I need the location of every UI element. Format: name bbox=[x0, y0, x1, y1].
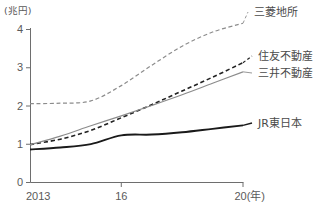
line-chart: (兆円) 01234 20131620(年) 三菱地所住友不動産三井不動産JR東… bbox=[0, 0, 314, 214]
series-label-1: 三菱地所 bbox=[254, 6, 298, 19]
y-tick-label: 1 bbox=[17, 138, 23, 150]
series-label-2: 住友不動産 bbox=[258, 49, 313, 63]
y-tick-label: 0 bbox=[17, 176, 23, 188]
y-axis-unit-label: (兆円) bbox=[4, 5, 31, 16]
x-tick-label: 20(年) bbox=[234, 189, 265, 202]
chart-svg: (兆円) 01234 20131620(年) 三菱地所住友不動産三井不動産JR東… bbox=[0, 0, 314, 214]
y-tick-label: 3 bbox=[17, 61, 23, 73]
y-tick-label: 4 bbox=[17, 23, 23, 35]
chart-background bbox=[0, 0, 314, 214]
x-tick-label: 16 bbox=[115, 190, 127, 202]
series-label-3: 三井不動産 bbox=[258, 66, 313, 80]
y-tick-label: 2 bbox=[17, 100, 23, 112]
x-tick-label: 2013 bbox=[26, 190, 50, 202]
series-label-4: JR東日本 bbox=[257, 116, 302, 130]
